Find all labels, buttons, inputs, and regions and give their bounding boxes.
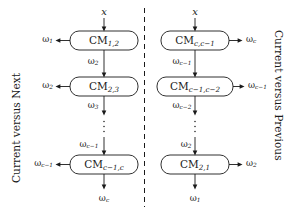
right-side-output-3: ω2	[246, 159, 257, 169]
left-module-label-1: CM1,2	[89, 35, 119, 47]
left-module-label-2: CM2,3	[89, 81, 119, 93]
right-link-label-2-sub: c−2	[180, 104, 192, 110]
left-link-label-3: ωc−1	[80, 140, 99, 150]
left-module-name-3: CM	[84, 158, 103, 170]
left-side-out-arrowhead-1	[56, 38, 61, 43]
figure-canvas: Current versus Next Current versus Previ…	[0, 0, 295, 215]
right-module-sub-1: c,c−1	[194, 39, 215, 48]
right-link-label-3-base: ω	[181, 139, 188, 149]
left-side-output-3-base: ω	[34, 158, 41, 168]
right-link-label-2: ωc−2	[173, 101, 192, 111]
right-final-output-sub: 1	[197, 197, 201, 203]
left-side-output-3: ωc−1	[34, 159, 53, 169]
right-module-name-3: CM	[180, 158, 199, 170]
left-link-label-3-base: ω	[80, 139, 87, 149]
left-module-name-1: CM	[89, 34, 108, 46]
right-side-output-2-base: ω	[248, 80, 255, 90]
left-final-output: ωc	[99, 194, 109, 204]
right-module-label-2: CMc−1,c−2	[170, 81, 220, 93]
right-side-out-arrowhead-3	[238, 162, 243, 167]
left-input-label: x	[101, 7, 107, 17]
left-ellipsis-dots	[103, 121, 105, 133]
left-link-label-2-sub: 3	[95, 104, 99, 110]
right-final-output: ω1	[190, 194, 201, 204]
left-side-output-2-base: ω	[42, 80, 49, 90]
right-link-label-3: ω2	[181, 140, 192, 150]
right-panel-caption: Current versus Previous	[273, 30, 284, 161]
left-side-output-1-base: ω	[42, 34, 49, 44]
left-panel-caption: Current versus Next	[11, 73, 22, 183]
left-side-output-1: ω1	[42, 35, 53, 45]
right-side-output-1: ωc	[246, 35, 256, 45]
left-module-sub-3: c−1,c	[103, 163, 124, 172]
right-link-label-2-base: ω	[173, 100, 180, 110]
left-link-2-dots-arrowhead	[102, 111, 107, 116]
right-module-name-2: CM	[170, 80, 189, 92]
left-side-out-arrowhead-3	[56, 162, 61, 167]
left-final-output-base: ω	[99, 193, 106, 203]
left-link-label-1-base: ω	[88, 56, 95, 66]
right-side-output-1-base: ω	[246, 34, 253, 44]
right-side-output-2: ωc−1	[248, 81, 267, 91]
left-module-label-3: CMc−1,c	[84, 159, 124, 171]
left-link-label-1: ω2	[88, 57, 99, 67]
right-input-label: x	[192, 7, 198, 17]
left-side-output-1-sub: 1	[49, 38, 53, 44]
left-side-out-arrowhead-2	[56, 84, 61, 89]
left-final-output-sub: c	[106, 197, 109, 203]
right-output-arrowhead	[193, 185, 198, 190]
left-link-label-3-sub: c−1	[87, 143, 99, 149]
right-module-sub-3: 2,1	[199, 163, 210, 172]
left-side-output-2-sub: 2	[49, 84, 53, 90]
right-ellipsis-dots	[194, 121, 196, 133]
left-module-sub-1: 1,2	[108, 39, 119, 48]
right-side-output-3-sub: 2	[253, 162, 257, 168]
right-link-2-dots-arrowhead	[193, 111, 198, 116]
right-link-label-1-sub: c−1	[180, 60, 192, 66]
left-side-output-3-sub: c−1	[41, 162, 53, 168]
left-link-label-2-base: ω	[88, 100, 95, 110]
right-module-name-1: CM	[175, 34, 194, 46]
left-module-sub-2: 2,3	[108, 85, 119, 94]
diagram-vector-layer	[0, 0, 295, 215]
right-side-out-arrowhead-1	[238, 38, 243, 43]
right-side-output-1-sub: c	[253, 38, 256, 44]
left-module-name-2: CM	[89, 80, 108, 92]
right-module-label-1: CMc,c−1	[175, 35, 215, 47]
left-side-output-2: ω2	[42, 81, 53, 91]
right-side-out-arrowhead-2	[240, 84, 245, 89]
right-module-sub-2: c−1,c−2	[189, 85, 220, 94]
left-link-label-1-sub: 2	[95, 60, 99, 66]
left-link-label-2: ω3	[88, 101, 99, 111]
right-link-label-3-sub: 2	[188, 143, 192, 149]
left-output-arrowhead	[102, 185, 107, 190]
right-side-output-2-sub: c−1	[255, 84, 267, 90]
right-final-output-base: ω	[190, 193, 197, 203]
right-module-label-3: CM2,1	[180, 159, 210, 171]
right-link-label-1-base: ω	[173, 56, 180, 66]
right-side-output-3-base: ω	[246, 158, 253, 168]
right-link-label-1: ωc−1	[173, 57, 192, 67]
